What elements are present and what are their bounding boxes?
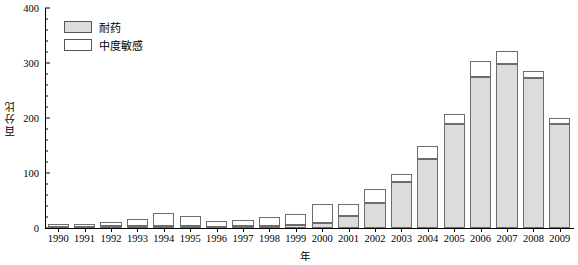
- x-axis-tick: [560, 228, 561, 232]
- bar-segment-sensitive: [153, 213, 174, 226]
- x-axis-tick: [481, 228, 482, 232]
- x-axis-tick: [454, 228, 455, 232]
- bar-2009: [549, 118, 570, 228]
- x-axis-tick: [137, 228, 138, 232]
- x-axis-line: [45, 228, 574, 229]
- x-axis-tick-label-1997: 1997: [233, 233, 254, 244]
- x-axis-title: 年: [300, 248, 310, 263]
- bar-2001: [338, 204, 359, 228]
- bar-segment-sensitive: [549, 118, 570, 124]
- x-axis-tick: [375, 228, 376, 232]
- bar-2004: [417, 146, 438, 229]
- bar-2003: [391, 174, 412, 228]
- y-axis-tick-label: 0: [0, 223, 45, 234]
- bar-segment-sensitive: [496, 51, 517, 64]
- bar-1994: [153, 213, 174, 228]
- x-axis-tick: [58, 228, 59, 232]
- bar-1995: [180, 216, 201, 228]
- bar-segment-sensitive: [338, 204, 359, 216]
- x-axis-tick-label-2005: 2005: [444, 233, 465, 244]
- x-axis-tick: [243, 228, 244, 232]
- bar-2007: [496, 51, 517, 228]
- x-axis-tick: [296, 228, 297, 232]
- x-axis-tick-label-1995: 1995: [180, 233, 201, 244]
- bar-segment-resist: [444, 124, 465, 229]
- legend-swatch-resist-icon: [64, 21, 92, 33]
- legend-item-resist: 耐药: [64, 19, 143, 35]
- x-axis-tick-label-2003: 2003: [391, 233, 412, 244]
- bar-2006: [470, 61, 491, 228]
- x-axis-tick-label-1999: 1999: [285, 233, 306, 244]
- bar-1999: [285, 214, 306, 228]
- bar-segment-sensitive: [100, 222, 121, 226]
- bar-segment-resist: [391, 182, 412, 228]
- x-axis-tick-label-2009: 2009: [549, 233, 570, 244]
- bar-2005: [444, 114, 465, 228]
- bar-segment-sensitive: [391, 174, 412, 182]
- bar-segment-sensitive: [259, 217, 280, 226]
- bar-segment-sensitive: [417, 146, 438, 160]
- y-axis-tick-label: 400: [0, 3, 45, 14]
- x-axis-tick-label-2001: 2001: [338, 233, 359, 244]
- bar-2008: [523, 71, 544, 228]
- x-axis-tick-label-1992: 1992: [101, 233, 122, 244]
- x-axis-tick: [190, 228, 191, 232]
- bar-1998: [259, 217, 280, 228]
- bar-1996: [206, 221, 227, 228]
- x-axis-tick-label-2000: 2000: [312, 233, 333, 244]
- bar-segment-sensitive: [206, 221, 227, 227]
- x-axis-tick: [85, 228, 86, 232]
- bar-segment-resist: [417, 159, 438, 228]
- bar-segment-sensitive: [523, 71, 544, 79]
- x-axis-tick-label-2004: 2004: [417, 233, 438, 244]
- x-axis-tick-label-2006: 2006: [470, 233, 491, 244]
- x-axis-tick-label-1990: 1990: [48, 233, 69, 244]
- x-axis-tick-label-1991: 1991: [74, 233, 95, 244]
- x-axis-tick: [507, 228, 508, 232]
- bar-segment-resist: [364, 203, 385, 228]
- bar-segment-resist: [470, 77, 491, 228]
- y-axis-tick-label: 300: [0, 58, 45, 69]
- x-axis-tick-label-1996: 1996: [206, 233, 227, 244]
- bar-segment-resist: [496, 64, 517, 228]
- bar-segment-sensitive: [444, 114, 465, 124]
- legend-swatch-sensitive-icon: [64, 39, 92, 51]
- bar-segment-sensitive: [127, 219, 148, 227]
- bar-segment-resist: [338, 216, 359, 228]
- bar-segment-sensitive: [285, 214, 306, 225]
- legend-label-resist: 耐药: [99, 19, 121, 35]
- bar-segment-sensitive: [312, 204, 333, 222]
- bar-segment-sensitive: [180, 216, 201, 226]
- x-axis-tick: [428, 228, 429, 232]
- x-axis-tick: [269, 228, 270, 232]
- x-axis-tick: [217, 228, 218, 232]
- legend-item-sensitive: 中度敏感: [64, 37, 143, 53]
- x-axis-tick: [111, 228, 112, 232]
- bar-1993: [127, 219, 148, 228]
- bar-segment-sensitive: [470, 61, 491, 77]
- y-axis-title: 百分比: [3, 100, 18, 136]
- x-axis-tick: [322, 228, 323, 232]
- legend-label-sensitive: 中度敏感: [99, 37, 143, 53]
- bar-segment-sensitive: [48, 224, 69, 227]
- bar-segment-sensitive: [232, 220, 253, 227]
- bar-2000: [312, 204, 333, 228]
- bar-segment-sensitive: [364, 189, 385, 203]
- x-axis-tick: [164, 228, 165, 232]
- x-axis-tick: [533, 228, 534, 232]
- bar-2002: [364, 189, 385, 228]
- x-axis-tick-label-2002: 2002: [365, 233, 386, 244]
- x-axis-tick-label-1998: 1998: [259, 233, 280, 244]
- bar-segment-resist: [523, 78, 544, 228]
- bar-segment-resist: [549, 124, 570, 229]
- x-axis-tick-label-2007: 2007: [497, 233, 518, 244]
- x-axis-tick-label-1993: 1993: [127, 233, 148, 244]
- chart-legend: 耐药 中度敏感: [64, 19, 143, 55]
- x-axis-tick-label-2008: 2008: [523, 233, 544, 244]
- bar-segment-sensitive: [74, 224, 95, 227]
- y-axis-tick-label: 100: [0, 168, 45, 179]
- x-axis-tick: [349, 228, 350, 232]
- stacked-bar-chart: 0100200300400 百分比 年 19901991199219931994…: [0, 0, 578, 265]
- x-axis-tick: [401, 228, 402, 232]
- bar-1997: [232, 220, 253, 228]
